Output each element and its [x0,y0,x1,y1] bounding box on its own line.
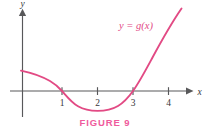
figure-container: x y 1 2 3 4 y = g(x) FIGURE 9 [0,0,207,134]
x-tick-label-1: 1 [60,98,65,108]
graph-plot: x y 1 2 3 4 y = g(x) FIGURE 9 [0,0,207,134]
figure-caption: FIGURE 9 [79,117,130,128]
x-tick-label-3: 3 [131,98,136,108]
function-curve-g [21,9,182,111]
y-axis-label: y [19,0,25,9]
curve-label-g-of-x: y = g(x) [118,20,153,32]
x-axis-arrowhead [186,87,194,94]
x-axis-label: x [196,87,202,97]
x-tick-label-4: 4 [166,98,171,108]
x-tick-label-2: 2 [95,98,100,108]
y-axis-arrowhead [19,9,26,16]
